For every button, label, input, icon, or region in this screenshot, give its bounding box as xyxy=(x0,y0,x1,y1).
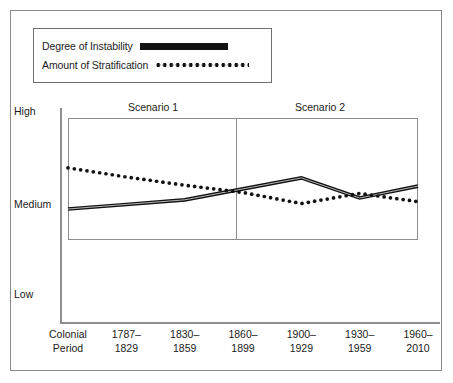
scenario-label-2: Scenario 2 xyxy=(275,101,365,113)
legend-item-degree-of-instability: Degree of Instability xyxy=(42,38,228,54)
x-axis-line xyxy=(60,322,440,324)
chart-figure: Degree of Instability Amount of Stratifi… xyxy=(0,0,453,383)
x-tick-label-line1: Colonial xyxy=(35,327,101,341)
x-tick-label: 1830–1859 xyxy=(152,327,218,355)
x-tick-label: 1860–1899 xyxy=(210,327,276,355)
legend-item-amount-of-stratification: Amount of Stratification xyxy=(42,57,249,73)
x-tick-label-line2: 1859 xyxy=(152,341,218,355)
x-tick-label-line2: 1959 xyxy=(327,341,393,355)
y-tick-label-low: Low xyxy=(14,288,33,300)
x-tick-label-line2: Period xyxy=(35,341,101,355)
x-tick-label-line2: 1929 xyxy=(268,341,334,355)
x-tick-label-line1: 1860– xyxy=(210,327,276,341)
x-tick-label-line1: 1830– xyxy=(152,327,218,341)
x-tick-label: 1900–1929 xyxy=(268,327,334,355)
scenario-divider-line xyxy=(236,118,237,240)
legend-label-amount-of-stratification: Amount of Stratification xyxy=(42,59,148,71)
plot-area-frame xyxy=(68,118,418,240)
y-tick-label-medium: Medium xyxy=(14,198,51,210)
x-tick-label: 1930–1959 xyxy=(327,327,393,355)
y-tick-label-high: High xyxy=(14,105,36,117)
x-tick-label: 1787–1829 xyxy=(93,327,159,355)
y-axis-line xyxy=(60,108,62,323)
x-tick-label: 1960–2010 xyxy=(385,327,451,355)
x-tick-label-line1: 1960– xyxy=(385,327,451,341)
x-tick-label-line1: 1900– xyxy=(268,327,334,341)
dotted-line-sample-icon xyxy=(155,63,249,67)
solid-line-sample-icon xyxy=(140,43,228,50)
x-axis-tick-labels: ColonialPeriod1787–18291830–18591860–189… xyxy=(60,327,440,367)
x-tick-label-line2: 2010 xyxy=(385,341,451,355)
x-tick-label-line1: 1787– xyxy=(93,327,159,341)
x-tick-label-line2: 1899 xyxy=(210,341,276,355)
x-tick-label-line2: 1829 xyxy=(93,341,159,355)
scenario-label-1: Scenario 1 xyxy=(108,101,198,113)
chart-legend: Degree of Instability Amount of Stratifi… xyxy=(33,28,272,83)
legend-label-degree-of-instability: Degree of Instability xyxy=(42,40,133,52)
x-tick-label-line1: 1930– xyxy=(327,327,393,341)
x-tick-label: ColonialPeriod xyxy=(35,327,101,355)
